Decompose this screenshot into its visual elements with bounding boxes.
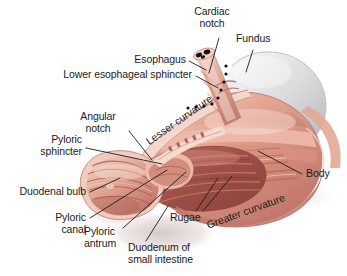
- label-pyloric-antrum-line2: antrum: [84, 237, 116, 249]
- label-pyloric-antrum-line1: Pyloric: [84, 225, 115, 237]
- label-cardiac-notch-line1: Cardiac: [194, 5, 229, 17]
- label-duodenal-bulb: Duodenal bulb: [4, 186, 86, 198]
- label-pyloric-sphincter: Pyloricsphincter: [12, 134, 82, 157]
- label-pyloric-canal: Pyloriccanal: [20, 212, 86, 235]
- label-duodenum-line1: Duodenum of: [128, 241, 190, 253]
- label-duodenum-small-intestine: Duodenum ofsmall intestine: [128, 242, 193, 265]
- stomach-anatomy-figure: Cardiacnotch Fundus Esophagus Lower esop…: [0, 0, 347, 276]
- label-pyloric-sphincter-line2: sphincter: [40, 145, 82, 157]
- label-body: Body: [306, 168, 330, 180]
- label-esophagus: Esophagus: [108, 54, 186, 66]
- label-pyloric-canal-line1: Pyloric: [55, 211, 86, 223]
- label-lower-esophageal-sphincter: Lower esophageal sphincter: [28, 69, 192, 81]
- label-pyloric-canal-line2: canal: [61, 223, 86, 235]
- label-pyloric-antrum: Pyloricantrum: [84, 226, 116, 249]
- label-cardiac-notch-line2: notch: [199, 17, 224, 29]
- label-angular-notch-line2: notch: [85, 122, 110, 134]
- label-angular-notch-line1: Angular: [80, 110, 116, 122]
- label-rugae: Rugae: [170, 212, 200, 224]
- label-angular-notch: Angularnotch: [70, 111, 126, 134]
- label-cardiac-notch: Cardiacnotch: [182, 6, 242, 29]
- label-duodenum-line2: small intestine: [128, 253, 193, 265]
- label-pyloric-sphincter-line1: Pyloric: [51, 133, 82, 145]
- label-fundus: Fundus: [236, 33, 270, 45]
